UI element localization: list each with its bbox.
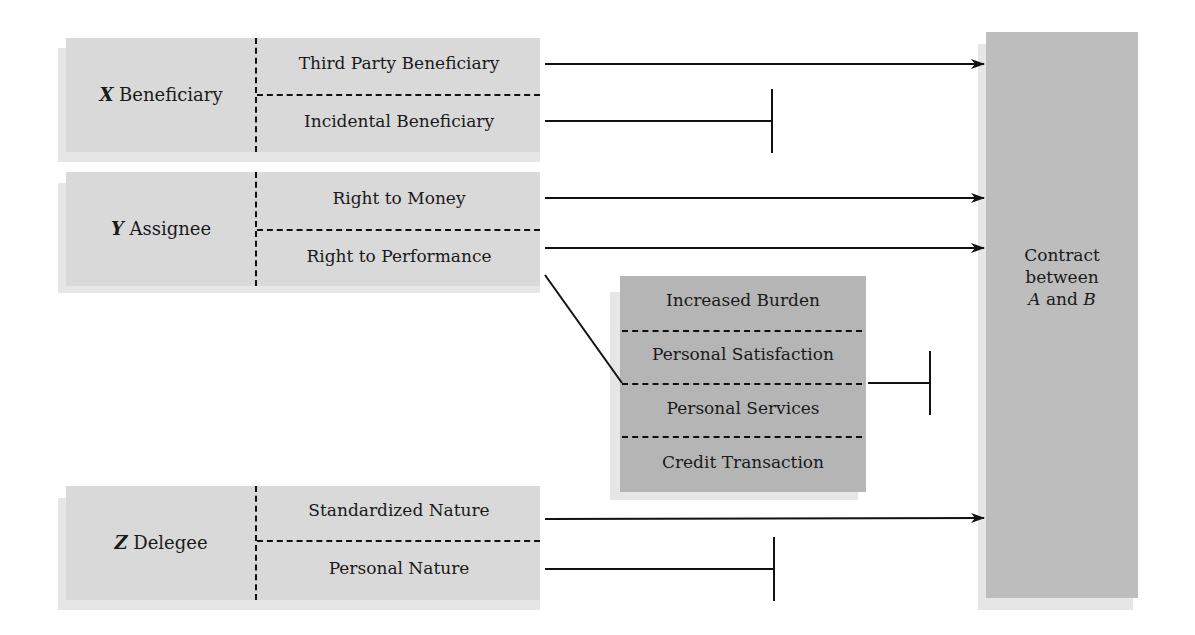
line-right-to-performance-to-exceptions [545,275,622,383]
blocked-exceptions [868,351,930,415]
connectors [0,0,1195,635]
blocked-incidental-beneficiary [545,89,772,153]
arrow-standardized-nature-to-contract [545,518,984,519]
blocked-personal-nature [545,537,774,601]
